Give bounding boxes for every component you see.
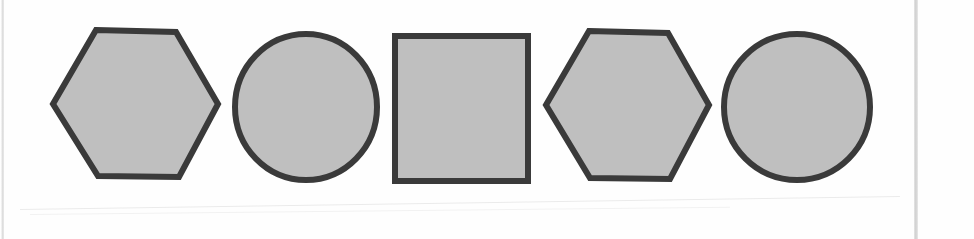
circle-shape-2 (724, 34, 870, 180)
scanned-page (0, 0, 974, 239)
hexagon-shape-1 (53, 30, 218, 177)
circle-shape-1 (235, 34, 377, 180)
square-shape-1 (395, 36, 528, 181)
shape-sequence-canvas (0, 0, 974, 239)
hexagon-shape-2 (546, 31, 709, 179)
